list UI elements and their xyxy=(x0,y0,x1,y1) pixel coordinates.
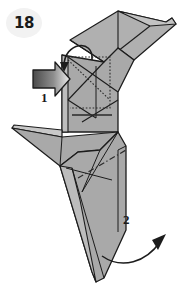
label-1: 1 xyxy=(41,90,48,106)
label-2: 2 xyxy=(123,212,130,228)
step-badge-number: 18 xyxy=(6,8,42,38)
body-block xyxy=(62,48,134,132)
step-badge: 18 xyxy=(6,8,44,38)
diagram-canvas: 18 1 2 xyxy=(0,0,183,288)
origami-figure xyxy=(0,0,183,288)
